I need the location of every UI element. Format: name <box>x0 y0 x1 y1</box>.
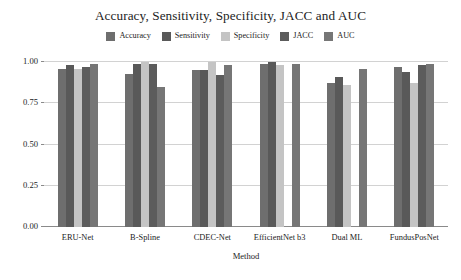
chart-figure: Accuracy, Sensitivity, Specificity, JACC… <box>0 0 461 280</box>
bar-group: B-Spline <box>111 62 178 227</box>
bar[interactable] <box>292 64 300 227</box>
legend-swatch-icon <box>324 32 333 41</box>
bar[interactable] <box>335 77 343 227</box>
bar-group: CDEC-Net <box>179 62 246 227</box>
x-tick-label: CDEC-Net <box>194 234 231 242</box>
bar[interactable] <box>359 69 367 227</box>
bar-group: Dual ML <box>313 62 380 227</box>
bar-group: FundusPosNet <box>381 62 448 227</box>
bar[interactable] <box>90 64 98 227</box>
chart-legend: AccuracySensitivitySpecificityJACCAUC <box>0 30 461 42</box>
bar[interactable] <box>192 70 200 227</box>
x-tick-label: Dual ML <box>332 234 363 242</box>
chart-title: Accuracy, Sensitivity, Specificity, JACC… <box>0 0 461 22</box>
bar[interactable] <box>133 64 141 227</box>
bar[interactable] <box>418 65 426 227</box>
x-tick-label: B-Spline <box>130 234 160 242</box>
y-tick-label: 0.25 <box>23 180 38 189</box>
bar-group: ERU-Net <box>44 62 111 227</box>
bar[interactable] <box>394 67 402 227</box>
bar-groups: ERU-NetB-SplineCDEC-NetEfficientNet b3Du… <box>44 62 448 227</box>
legend-label: Specificity <box>234 32 269 40</box>
legend-entry[interactable]: AUC <box>324 32 354 41</box>
x-tick-label: FundusPosNet <box>390 234 439 242</box>
legend-swatch-icon <box>280 32 289 41</box>
bar[interactable] <box>82 67 90 227</box>
legend-entry[interactable]: JACC <box>280 32 313 41</box>
bar[interactable] <box>276 65 284 227</box>
bar[interactable] <box>327 83 335 227</box>
y-tick-label: 1.00 <box>23 57 38 66</box>
y-tick-label: 0.75 <box>23 98 38 107</box>
legend-swatch-icon <box>162 32 171 41</box>
bar[interactable] <box>402 72 410 227</box>
bar[interactable] <box>410 83 418 227</box>
bar[interactable] <box>268 62 276 227</box>
legend-label: JACC <box>293 32 313 40</box>
y-tick-label: 0.00 <box>23 222 38 231</box>
legend-entry[interactable]: Accuracy <box>106 32 150 41</box>
bar[interactable] <box>343 85 351 227</box>
legend-swatch-icon <box>221 32 230 41</box>
bar[interactable] <box>260 64 268 227</box>
legend-swatch-icon <box>106 32 115 41</box>
legend-label: AUC <box>337 32 354 40</box>
bar[interactable] <box>74 69 82 227</box>
bar[interactable] <box>58 69 66 227</box>
bar[interactable] <box>208 62 216 227</box>
bar[interactable] <box>157 87 165 227</box>
bar[interactable] <box>224 65 232 227</box>
legend-label: Sensitivity <box>175 32 210 40</box>
x-tick-label: EfficientNet b3 <box>254 234 306 242</box>
x-tick-label: ERU-Net <box>62 234 94 242</box>
bar[interactable] <box>125 74 133 227</box>
x-axis-title: Method <box>44 252 448 261</box>
legend-entry[interactable]: Sensitivity <box>162 32 210 41</box>
y-tick-label: 0.50 <box>23 139 38 148</box>
legend-entry[interactable]: Specificity <box>221 32 269 41</box>
bar[interactable] <box>66 65 74 227</box>
bar[interactable] <box>200 70 208 227</box>
bar[interactable] <box>149 64 157 227</box>
legend-label: Accuracy <box>119 32 150 40</box>
plot-area: 0.000.250.500.751.00 ERU-NetB-SplineCDEC… <box>44 62 448 227</box>
bar[interactable] <box>426 64 434 227</box>
bar-group: EfficientNet b3 <box>246 62 313 227</box>
bar[interactable] <box>141 62 149 227</box>
bar[interactable] <box>216 75 224 227</box>
